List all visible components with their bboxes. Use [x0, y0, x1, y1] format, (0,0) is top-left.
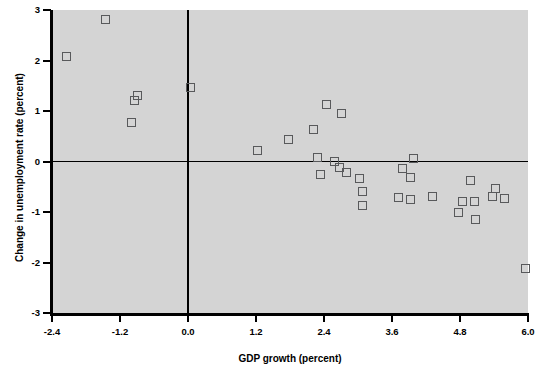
- scatter-point: [406, 195, 415, 204]
- y-axis-tick-label: 3: [7, 4, 40, 15]
- x-axis-tick: [323, 315, 325, 322]
- scatter-point: [409, 154, 418, 163]
- scatter-point: [322, 100, 331, 109]
- x-axis-tick-label: 2.4: [304, 326, 344, 337]
- x-axis-tick-label: 0.0: [168, 326, 208, 337]
- x-axis-line: [50, 313, 529, 316]
- scatter-point: [313, 153, 322, 162]
- scatter-point: [521, 264, 530, 273]
- y-axis-tick: [43, 262, 51, 264]
- y-axis-tick-label: -3: [7, 307, 40, 318]
- scatter-point: [500, 194, 509, 203]
- scatter-point: [470, 197, 479, 206]
- x-axis-tick-label: -1.2: [100, 326, 140, 337]
- x-axis-tick-label: 6.0: [508, 326, 545, 337]
- scatter-point: [342, 168, 351, 177]
- x-axis-tick-label: 4.8: [440, 326, 480, 337]
- y-axis-title: Change in unemployment rate (percent): [14, 73, 25, 262]
- x-axis-tick: [527, 315, 529, 322]
- scatter-point: [337, 109, 346, 118]
- scatter-point: [466, 176, 475, 185]
- x-axis-tick-label: 3.6: [372, 326, 412, 337]
- scatter-point: [62, 52, 71, 61]
- scatter-chart-figure: -2.4-1.20.01.22.43.64.86.0 3210-1-2-3 GD…: [0, 0, 545, 373]
- y-axis-tick-label: 2: [7, 55, 40, 66]
- scatter-point: [471, 215, 480, 224]
- y-axis-tick: [43, 161, 51, 163]
- y-axis-tick: [43, 60, 51, 62]
- scatter-point: [101, 15, 110, 24]
- x-axis-tick-label: 1.2: [236, 326, 276, 337]
- scatter-point: [454, 208, 463, 217]
- y-axis-tick: [43, 110, 51, 112]
- scatter-point: [428, 192, 437, 201]
- y-axis-tick: [43, 312, 51, 314]
- zero-horizontal-reference-line: [52, 161, 528, 163]
- scatter-point: [358, 187, 367, 196]
- scatter-point: [127, 118, 136, 127]
- x-axis-title: GDP growth (percent): [52, 353, 528, 364]
- scatter-point: [394, 193, 403, 202]
- scatter-point: [358, 201, 367, 210]
- scatter-point: [316, 170, 325, 179]
- x-axis-tick: [459, 315, 461, 322]
- scatter-point: [309, 125, 318, 134]
- x-axis-tick: [51, 315, 53, 322]
- zero-vertical-reference-line: [187, 10, 189, 313]
- scatter-point: [406, 173, 415, 182]
- scatter-point: [458, 197, 467, 206]
- scatter-point: [488, 192, 497, 201]
- scatter-point: [355, 174, 364, 183]
- scatter-point: [284, 135, 293, 144]
- x-axis-tick: [119, 315, 121, 322]
- scatter-point: [186, 83, 195, 92]
- scatter-point: [253, 146, 262, 155]
- x-axis-tick: [391, 315, 393, 322]
- scatter-point: [130, 96, 139, 105]
- scatter-point: [398, 164, 407, 173]
- x-axis-tick: [187, 315, 189, 322]
- y-axis-tick: [43, 211, 51, 213]
- y-axis-tick: [43, 9, 51, 11]
- x-axis-tick-label: -2.4: [32, 326, 72, 337]
- x-axis-tick: [255, 315, 257, 322]
